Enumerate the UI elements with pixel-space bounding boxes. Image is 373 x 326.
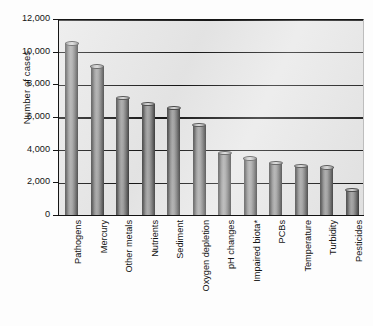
y-axis-tick-label: 8,000 [27,80,50,89]
y-axis-tick-label: 10,000 [22,47,50,56]
bar-cap [320,165,334,169]
y-axis-tick-label: 12,000 [22,14,50,23]
bar-cap [167,106,181,110]
x-axis-tick-label: Nutrients [151,220,160,257]
y-axis-tick-label: 0 [45,210,50,219]
plot-area [58,19,364,215]
bar [91,66,104,215]
bar [116,98,129,215]
y-axis-tick-label: 2,000 [27,178,50,187]
bar [193,125,206,215]
bar-cap [90,64,104,68]
bar-cap [218,151,232,155]
bar-chart-figure: Number of cases 02,0004,0006,0008,00010,… [0,0,373,326]
x-axis-tick-label: Oxygen depletion [202,220,211,292]
x-axis-tick-label: Pesticides [355,220,364,262]
y-axis-tick-labels: 02,0004,0006,0008,00010,00012,000 [0,0,58,326]
bar-cap [243,156,257,160]
x-axis-tick-label: Sediment [176,220,185,259]
bar-cap [269,161,283,165]
bar-cap [116,96,130,100]
bar [167,108,180,215]
bar [346,190,359,215]
bar-cap [192,123,206,127]
bar [142,104,155,215]
bar-series [59,20,363,215]
bar [65,44,78,216]
x-axis-tick-label: pH changes [227,220,236,269]
x-axis-tick-label: Other metals [125,220,134,273]
x-axis-tick-label: PCBs [278,220,287,244]
x-axis-tick-label: Turbidity [329,220,338,255]
bar [269,163,282,215]
bar-cap [345,188,359,192]
x-axis-tick-labels: PathogensMercuryOther metalsNutrientsSed… [58,216,364,326]
bar-cap [294,164,308,168]
x-axis-tick-label: Temperature [304,220,313,272]
x-axis-tick-label: Pathogens [74,220,83,264]
x-axis-tick-label: Impaired biota* [253,220,262,282]
x-axis-tick-label: Mercury [100,220,109,253]
y-axis-tick-label: 6,000 [27,112,50,121]
bar [320,168,333,215]
bar-cap [65,41,79,45]
bar [218,153,231,215]
bar [295,166,308,215]
y-axis-tick-label: 4,000 [27,145,50,154]
x-axis-line [58,215,364,216]
bar-cap [141,102,155,106]
bar [244,159,257,215]
